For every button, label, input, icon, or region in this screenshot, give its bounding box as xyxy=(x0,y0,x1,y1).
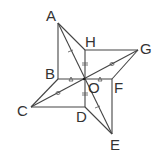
segment-AH xyxy=(58,23,85,50)
label-G: G xyxy=(140,40,152,57)
label-H: H xyxy=(85,33,96,50)
label-C: C xyxy=(17,102,28,119)
segment-BC xyxy=(31,79,58,107)
label-F: F xyxy=(114,79,123,96)
segment-GF xyxy=(112,50,138,79)
label-O: O xyxy=(88,79,100,96)
label-A: A xyxy=(46,7,56,24)
segment-DE xyxy=(85,107,112,134)
pinwheel-diagram: A H G B O F C D E xyxy=(0,0,163,163)
label-D: D xyxy=(76,108,87,125)
label-B: B xyxy=(45,65,55,82)
label-E: E xyxy=(110,136,120,153)
center-point-O xyxy=(83,78,86,81)
